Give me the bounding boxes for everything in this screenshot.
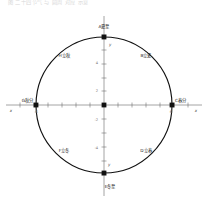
x-tick-label-neg6: -6: [34, 110, 38, 114]
point-marker-C: [170, 103, 175, 108]
origin-marker: [102, 103, 107, 108]
y-axis-label-top: y: [108, 42, 112, 47]
point-label-D: D立春: [140, 147, 152, 154]
y-tick-label-2: 2: [96, 89, 98, 93]
point-marker-E: [102, 171, 107, 176]
point-label-G: G秋分: [22, 97, 34, 104]
x-axis-label-left: x: [9, 108, 13, 113]
y-tick-label-4: 4: [96, 61, 99, 65]
diagram-canvas: 图 二十四节气 与 圆周 对应 示意: [0, 0, 208, 204]
x-tick-label-6: 6: [170, 110, 173, 114]
y-tick-label-neg2: -2: [94, 118, 98, 122]
point-marker-A: [102, 35, 107, 40]
y-axis-label-bottom: y: [107, 162, 111, 167]
point-label-H: H立秋: [58, 52, 70, 59]
point-label-B: B立夏: [141, 52, 153, 58]
point-label-A: A夏至: [99, 24, 111, 29]
x-axis-label: x: [194, 108, 198, 113]
coordinate-plane: x x y y -6 6 4 2 -2 -4 A夏至 B立夏 C春分 D立春 E…: [0, 0, 208, 204]
y-tick-label-neg4: -4: [94, 146, 98, 150]
point-label-C: C春分: [175, 97, 187, 104]
point-label-F: F立冬: [59, 147, 70, 154]
point-marker-G: [34, 103, 39, 108]
point-label-E: E冬至: [105, 183, 117, 190]
